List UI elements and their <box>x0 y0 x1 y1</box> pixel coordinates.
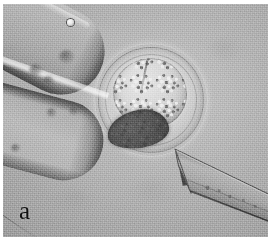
figure-panel: a <box>0 0 270 242</box>
micrograph-image: a <box>3 4 268 237</box>
panel-label: a <box>19 198 30 223</box>
field-vignette <box>3 4 268 237</box>
